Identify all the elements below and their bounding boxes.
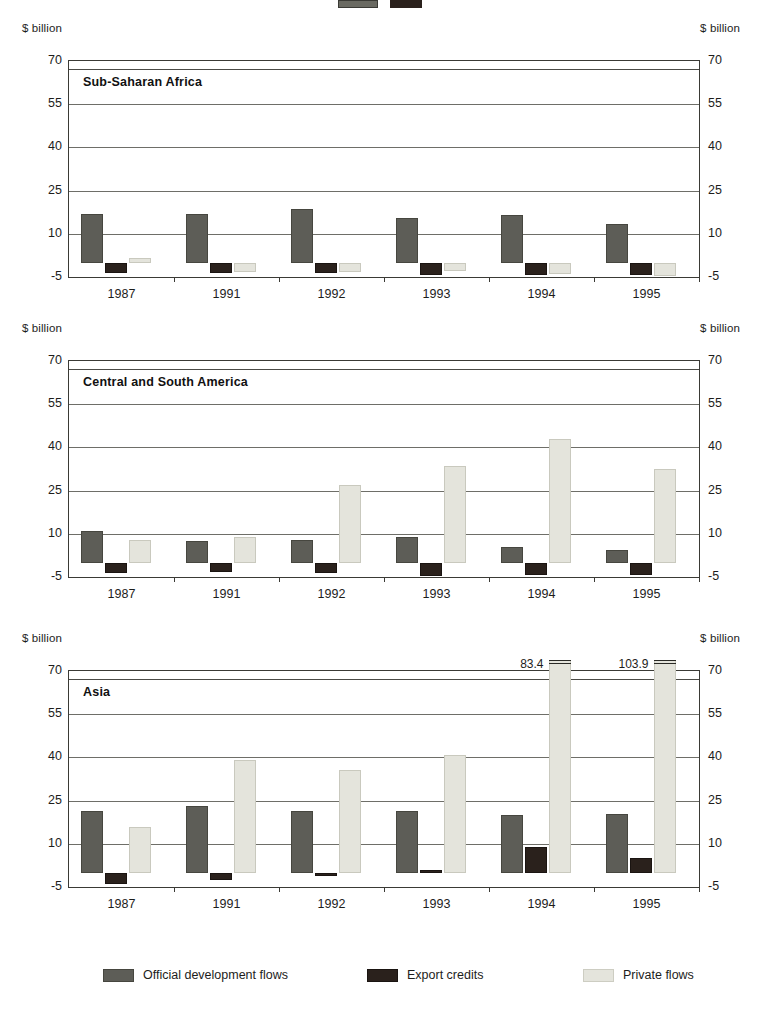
x-axis-tick [279, 887, 280, 892]
x-axis-tick-label: 1992 [318, 287, 346, 301]
chart-panel-central-south-america: $ billion $ billion Central and South Am… [0, 322, 758, 612]
odf-bar [501, 547, 523, 563]
x-axis-tick [699, 277, 700, 282]
export-credits-bar [105, 563, 127, 574]
x-axis-tick [384, 887, 385, 892]
y-axis-tick-label: -5 [51, 570, 62, 583]
y-axis-tick-label: 25 [708, 184, 722, 197]
export-credits-bar [210, 563, 232, 573]
odf-bar [186, 214, 208, 263]
bar-group [174, 361, 279, 577]
y-axis-tick-label: 10 [708, 227, 722, 240]
x-axis-tick-label: 1991 [213, 897, 241, 911]
y-axis-tick-label: 40 [48, 440, 62, 453]
y-axis-tick-label: 70 [708, 664, 722, 677]
export-credits-bar [210, 873, 232, 880]
plot-area: Sub-Saharan Africa 70705555404025251010-… [68, 60, 700, 278]
odf-bar [606, 224, 628, 263]
y-axis-tick-label: 25 [48, 794, 62, 807]
x-axis-tick-label: 1987 [108, 897, 136, 911]
y-axis-tick-label: 40 [708, 440, 722, 453]
x-axis-tick [489, 277, 490, 282]
odf-bar [291, 811, 313, 873]
bar-group [279, 61, 384, 277]
x-axis-tick-label: 1993 [423, 287, 451, 301]
export-credits-bar [315, 563, 337, 573]
legend-item-private-flows: Private flows [583, 968, 694, 982]
axis-break-mark-icon [549, 660, 571, 667]
private-flows-bar [654, 469, 676, 563]
private-flows-bar [654, 263, 676, 276]
y-axis-tick-label: 70 [48, 354, 62, 367]
private-flows-bar [234, 760, 256, 872]
odf-bar [81, 531, 103, 563]
legend-item-export-credits: Export credits [367, 968, 483, 982]
odf-bar [291, 540, 313, 563]
chart-legend: Official development flows Export credit… [0, 968, 758, 998]
bar-group [594, 361, 699, 577]
top-cut-marker [338, 0, 428, 9]
export-credits-bar [315, 263, 337, 273]
export-credits-bar [420, 870, 442, 873]
y-axis-tick-label: 10 [48, 527, 62, 540]
private-flows-bar [549, 660, 571, 873]
x-axis-tick-label: 1991 [213, 287, 241, 301]
x-axis-tick-label: 1992 [318, 897, 346, 911]
x-axis-tick [594, 277, 595, 282]
odf-bar [501, 815, 523, 873]
x-axis-tick-label: 1995 [633, 897, 661, 911]
private-flows-bar [339, 485, 361, 563]
private-flows-bar [339, 263, 361, 273]
y-axis-tick-label: 40 [708, 140, 722, 153]
x-axis-tick-label: 1992 [318, 587, 346, 601]
odf-bar [291, 209, 313, 262]
y-axis-tick-label: 70 [708, 354, 722, 367]
legend-label: Official development flows [143, 968, 288, 982]
x-axis-tick-label: 1995 [633, 287, 661, 301]
x-axis-tick-label: 1987 [108, 287, 136, 301]
bar-group [69, 61, 174, 277]
bar-group [279, 361, 384, 577]
private-flows-bar [339, 770, 361, 872]
export-credits-bar [210, 263, 232, 274]
private-flows-bar [444, 263, 466, 271]
private-flows-bar [444, 755, 466, 873]
export-credits-bar [420, 563, 442, 576]
axis-break-mark-icon [654, 660, 676, 667]
y-axis-tick-label: 70 [708, 54, 722, 67]
odf-bar [186, 541, 208, 563]
odf-bar [186, 806, 208, 872]
private-flows-bar [234, 263, 256, 272]
bar-group [69, 361, 174, 577]
y-axis-tick-label: 25 [708, 484, 722, 497]
y-axis-tick-label: 10 [708, 527, 722, 540]
bar-group [174, 671, 279, 887]
odf-bar [81, 811, 103, 873]
export-credits-bar [630, 858, 652, 872]
odf-bar [396, 811, 418, 873]
x-axis-tick [699, 887, 700, 892]
bar-group [384, 61, 489, 277]
y-axis-unit-left: $ billion [22, 322, 62, 334]
x-axis-tick [174, 577, 175, 582]
odf-bar [501, 215, 523, 263]
private-flows-bar [444, 466, 466, 562]
export-credits-bar [525, 263, 547, 276]
x-axis-tick-label: 1994 [528, 587, 556, 601]
y-axis-tick-label: -5 [51, 270, 62, 283]
bar-value-annotation: 103.9 [618, 657, 648, 671]
y-axis-tick-label: 70 [48, 664, 62, 677]
y-axis-tick-label: 10 [48, 837, 62, 850]
bar-group [489, 671, 594, 887]
export-credits-bar [525, 847, 547, 873]
export-credits-swatch-icon [367, 969, 398, 982]
bar-group [594, 61, 699, 277]
private-flows-bar [549, 439, 571, 563]
x-axis-tick [594, 577, 595, 582]
bar-value-annotation: 83.4 [520, 657, 543, 671]
x-axis-tick [489, 577, 490, 582]
plot-area: Asia 70705555404025251010-5-519871991199… [68, 670, 700, 888]
legend-label: Private flows [623, 968, 694, 982]
y-axis-tick-label: 55 [48, 707, 62, 720]
bar-group [69, 671, 174, 887]
